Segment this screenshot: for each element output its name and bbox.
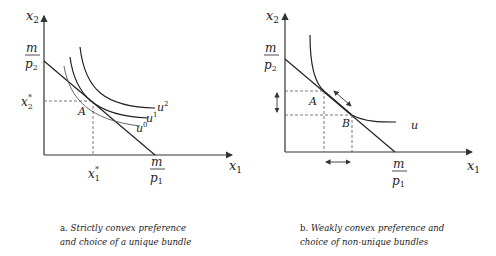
x2-star-label: x2* [21, 93, 33, 111]
svg-text:p1: p1 [150, 171, 163, 186]
caption-a-prefix: a. [60, 223, 68, 233]
u2-label: u2 [157, 100, 169, 114]
point-a-label: A [77, 105, 86, 118]
caption-b-prefix: b. [300, 223, 308, 233]
u-label: u [411, 119, 418, 132]
budget-line [44, 61, 155, 155]
u1-label: u1 [146, 111, 158, 125]
x-axis-label: x1 [467, 158, 480, 175]
indifference-curve-u2 [80, 47, 155, 108]
svg-text:p1: p1 [392, 174, 405, 189]
y-axis-label: x2 [266, 8, 279, 25]
caption-a: a. Strictly convex preference and choice… [60, 221, 191, 249]
x-intercept-label: m p1 [150, 155, 165, 186]
caption-b-line2: choice of non-unique bundles [300, 235, 444, 249]
panel-b: x2 x1 m p2 m p1 A B u [264, 8, 480, 189]
x-intercept-label: m p1 [392, 157, 407, 189]
svg-text:p2: p2 [264, 58, 277, 73]
figure: x2 x1 m p2 m p1 x2* x1* A u0 u1 u2 x2 x [0, 0, 496, 256]
x1-star-label: x1* [88, 165, 100, 183]
svg-text:m: m [151, 155, 162, 169]
svg-text:m: m [265, 41, 276, 55]
caption-a-line2: and choice of a unique bundle [60, 235, 191, 249]
svg-text:p2: p2 [25, 57, 38, 72]
tangent-range-arrow [334, 91, 351, 106]
svg-text:m: m [393, 157, 404, 171]
x-axis-label: x1 [229, 158, 242, 175]
indifference-curve-u0 [64, 66, 140, 126]
y-axis-label: x2 [26, 8, 39, 25]
svg-text:m: m [26, 41, 37, 55]
caption-b: b. Weakly convex preference and choice o… [300, 221, 444, 249]
y-intercept-label: m p2 [25, 41, 40, 72]
y-intercept-label: m p2 [264, 41, 279, 73]
indifference-curve-u [310, 35, 396, 122]
panel-a: x2 x1 m p2 m p1 x2* x1* A u0 u1 u2 [21, 8, 242, 186]
caption-b-line1: Weakly convex preference and [311, 223, 444, 233]
point-b-label: B [341, 117, 350, 130]
point-a-label: A [308, 95, 317, 108]
caption-a-line1: Strictly convex preference [71, 223, 186, 233]
